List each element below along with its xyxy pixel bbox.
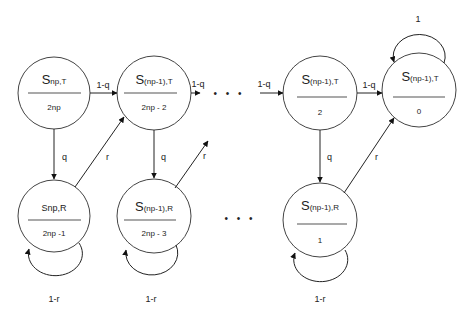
edge-label: 1-r bbox=[315, 294, 326, 304]
ellipsis-bottom: • • • bbox=[224, 213, 255, 224]
svg-text:Snp,T: Snp,T bbox=[42, 72, 67, 87]
state-node-C: S(np-1),T 2 bbox=[283, 56, 357, 130]
edge-label: r bbox=[106, 152, 109, 162]
edge-label: r bbox=[203, 151, 206, 161]
edge-label: 1-q bbox=[362, 80, 375, 90]
state-value: 0 bbox=[417, 107, 422, 116]
state-value: 2 bbox=[318, 108, 323, 117]
state-subscript: np,T bbox=[50, 77, 66, 86]
edge-label: 1-r bbox=[146, 294, 157, 304]
edge-B-F: q bbox=[154, 130, 166, 178]
state-node-D: S(np-1),T 0 bbox=[382, 53, 456, 127]
state-node-A: Snp,T 2np bbox=[18, 57, 90, 129]
state-subscript: (np-1),R bbox=[310, 203, 340, 212]
edge-E-B: r bbox=[75, 117, 124, 187]
state-subscript: np,R bbox=[48, 203, 68, 213]
edge-label: 1 bbox=[415, 14, 420, 24]
svg-text:S(np-1),T: S(np-1),T bbox=[135, 72, 172, 87]
edge-G-D: r bbox=[344, 118, 394, 193]
edge-label: r bbox=[375, 152, 378, 162]
edge-A-E: q bbox=[54, 129, 67, 179]
edge-B-ellipsis: 1-q bbox=[191, 79, 205, 93]
state-node-E: Snp,R 2np -1 bbox=[18, 180, 90, 252]
state-node-B: S(np-1),T 2np - 2 bbox=[117, 56, 191, 130]
edge-label: q bbox=[327, 152, 332, 162]
state-symbol: S bbox=[401, 69, 410, 84]
state-value: 1 bbox=[318, 236, 323, 245]
markov-chain-diagram: Snp,T 2np S(np-1),T 2np - 2 S(np-1),T 2 … bbox=[0, 0, 471, 317]
edge-C-G: q bbox=[320, 130, 332, 182]
state-symbol: S bbox=[135, 199, 144, 214]
edge-ellipsis-C: 1-q bbox=[257, 79, 283, 93]
self-loop-D: 1 bbox=[393, 14, 445, 63]
state-subscript: (np-1),T bbox=[144, 77, 173, 86]
edge-label: 1-q bbox=[191, 79, 204, 89]
self-loop-G: 1-r bbox=[294, 250, 348, 304]
svg-text:S(np-1),T: S(np-1),T bbox=[301, 72, 338, 87]
svg-text:Snp,R: Snp,R bbox=[41, 203, 67, 213]
state-node-F: S(np-1),R 2np - 3 bbox=[117, 179, 191, 253]
edge-label: q bbox=[62, 152, 67, 162]
state-subscript: (np-1),T bbox=[410, 74, 439, 83]
state-subscript: (np-1),R bbox=[144, 204, 174, 213]
state-value: 2np - 3 bbox=[142, 229, 167, 238]
svg-text:S(np-1),R: S(np-1),R bbox=[135, 199, 173, 214]
edge-label: 1-q bbox=[257, 79, 270, 89]
state-value: 2np bbox=[47, 103, 61, 112]
state-value: 2np - 2 bbox=[142, 103, 167, 112]
state-symbol: S bbox=[301, 198, 310, 213]
state-subscript: (np-1),T bbox=[310, 77, 339, 86]
edge-label: q bbox=[161, 152, 166, 162]
state-symbol: S bbox=[42, 72, 51, 87]
state-node-G: S(np-1),R 1 bbox=[283, 183, 357, 257]
self-loop-F: 1-r bbox=[126, 245, 178, 304]
svg-text:S(np-1),T: S(np-1),T bbox=[401, 69, 438, 84]
edge-label: 1-r bbox=[49, 294, 60, 304]
edge-C-D: 1-q bbox=[357, 80, 382, 93]
edge-F-up: r bbox=[175, 141, 208, 188]
state-symbol: S bbox=[301, 72, 310, 87]
svg-text:S(np-1),R: S(np-1),R bbox=[301, 198, 339, 213]
state-value: 2np -1 bbox=[43, 229, 66, 238]
edge-A-B: 1-q bbox=[90, 80, 117, 93]
edge-label: 1-q bbox=[96, 80, 109, 90]
ellipsis-top: • • • bbox=[213, 88, 244, 99]
state-symbol: S bbox=[135, 72, 144, 87]
